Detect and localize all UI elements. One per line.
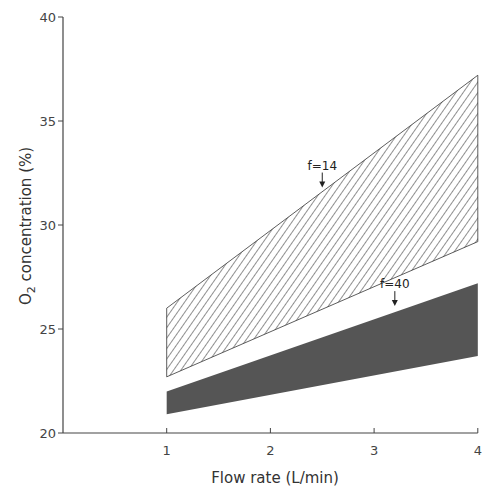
y-tick-label: 25 (39, 322, 56, 337)
x-tick-label: 1 (163, 443, 171, 458)
arrow-head-icon (319, 182, 325, 188)
annotation-label: f=40 (380, 277, 410, 291)
arrow-head-icon (392, 300, 398, 306)
x-axis-title: Flow rate (L/min) (211, 469, 339, 487)
y-tick-label: 20 (39, 426, 56, 441)
y-tick-label: 30 (39, 218, 56, 233)
y-axis-title: O2 concentration (%) (17, 147, 38, 305)
plot-area: 20253035401234f=14f=40 (39, 10, 481, 458)
x-tick-label: 4 (474, 443, 482, 458)
y-tick-label: 40 (39, 10, 56, 25)
x-tick-label: 3 (370, 443, 378, 458)
annotation-label: f=14 (307, 159, 337, 173)
chart: 20253035401234f=14f=40 Flow rate (L/min)… (0, 0, 491, 497)
x-tick-label: 2 (266, 443, 274, 458)
y-tick-label: 35 (39, 114, 56, 129)
